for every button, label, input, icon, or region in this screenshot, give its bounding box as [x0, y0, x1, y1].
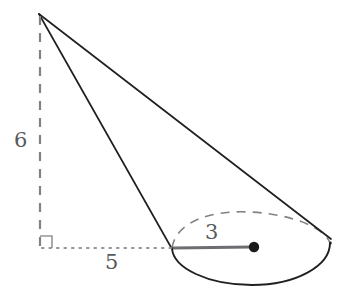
right-angle-marker-icon — [40, 236, 52, 248]
base-offset-label: 5 — [105, 252, 118, 273]
base-ellipse-right-cap — [330, 242, 331, 243]
slant-line-upper — [39, 14, 331, 239]
cone-diagram: 6 5 3 — [0, 0, 343, 295]
radius-label: 3 — [205, 222, 218, 243]
base-ellipse-back-arc — [172, 212, 330, 248]
radius-line — [173, 247, 252, 248]
cone-figure-svg — [0, 0, 343, 295]
height-label: 6 — [14, 130, 27, 151]
slant-line-lower — [39, 14, 172, 249]
center-dot-icon — [249, 242, 259, 252]
